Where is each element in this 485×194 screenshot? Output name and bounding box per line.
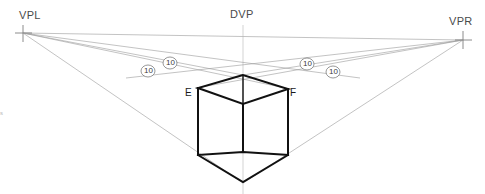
measure-marker-label-1: 10 (144, 67, 153, 75)
dvp-label: DVP (230, 9, 254, 20)
left-edge-fragment-label: s (0, 110, 3, 116)
vpl-ray-to-bottom-left (23, 33, 243, 183)
corner-f-label: F (290, 88, 296, 98)
vpr-label: VPR (449, 16, 473, 27)
measure-marker-label-3: 10 (303, 60, 312, 68)
vpr-ray-to-top-apex (196, 40, 463, 88)
vpl-label: VPL (19, 10, 41, 21)
vpr-ray-to-top-back (126, 40, 463, 78)
measure-marker-label-2: 10 (166, 59, 175, 67)
corner-e-label: E (185, 88, 192, 98)
vpl-ray-to-top-apex (23, 33, 290, 89)
measure-marker-label-4: 10 (329, 68, 338, 76)
perspective-drawing-canvas: VPL VPR DVP E F s 10 10 10 10 (0, 0, 485, 194)
perspective-construction-svg (0, 0, 485, 194)
vpr-ray-to-top-right (243, 40, 463, 75)
vpl-ray-to-top-back (23, 33, 360, 78)
